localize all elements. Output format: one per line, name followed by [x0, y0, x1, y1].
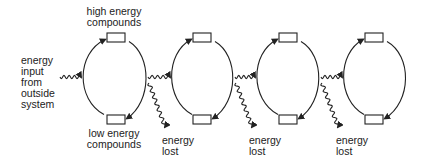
low-energy-compound-box: [365, 115, 383, 124]
downward-arc-arrow: [213, 42, 233, 119]
upward-arc-arrow: [172, 40, 192, 115]
energy-input-label: energy input from outside system: [21, 55, 55, 110]
downward-arc-arrow: [127, 42, 146, 119]
low-energy-compounds-label: low energy compounds: [80, 128, 148, 150]
high-energy-compounds-label: high energy compounds: [82, 6, 146, 28]
upward-arc-arrow: [83, 40, 105, 115]
energy-input-wavy-arrow: [60, 75, 81, 78]
energy-lost-wavy-arrow: [321, 83, 339, 127]
energy-transfer-wavy-arrow: [235, 75, 255, 78]
label-line: lost: [249, 146, 281, 157]
label-line: lost: [336, 146, 368, 157]
downward-arc-arrow: [299, 42, 319, 119]
high-energy-compound-box: [279, 33, 297, 42]
energy-lost-label-1: energy lost: [162, 135, 194, 157]
downward-arc-arrow: [385, 42, 406, 119]
label-line: system: [21, 99, 55, 110]
low-energy-compound-box: [279, 115, 297, 124]
label-line: compounds: [80, 139, 148, 150]
energy-cycle-diagram: high energy compounds low energy compoun…: [0, 0, 427, 164]
energy-lost-wavy-arrow: [235, 83, 253, 127]
high-energy-compound-box: [107, 33, 125, 42]
upward-arc-arrow: [257, 40, 278, 115]
low-energy-compound-box: [193, 115, 211, 124]
high-energy-compound-box: [193, 33, 211, 42]
energy-transfer-wavy-arrow: [148, 75, 170, 78]
energy-lost-wavy-arrow: [148, 83, 166, 127]
low-energy-compound-box: [107, 115, 125, 124]
upward-arc-arrow: [344, 40, 364, 115]
energy-lost-label-2: energy lost: [249, 135, 281, 157]
high-energy-compound-box: [365, 33, 383, 42]
energy-transfer-wavy-arrow: [321, 75, 342, 78]
label-line: compounds: [82, 17, 146, 28]
label-line: lost: [162, 146, 194, 157]
energy-lost-label-3: energy lost: [336, 135, 368, 157]
